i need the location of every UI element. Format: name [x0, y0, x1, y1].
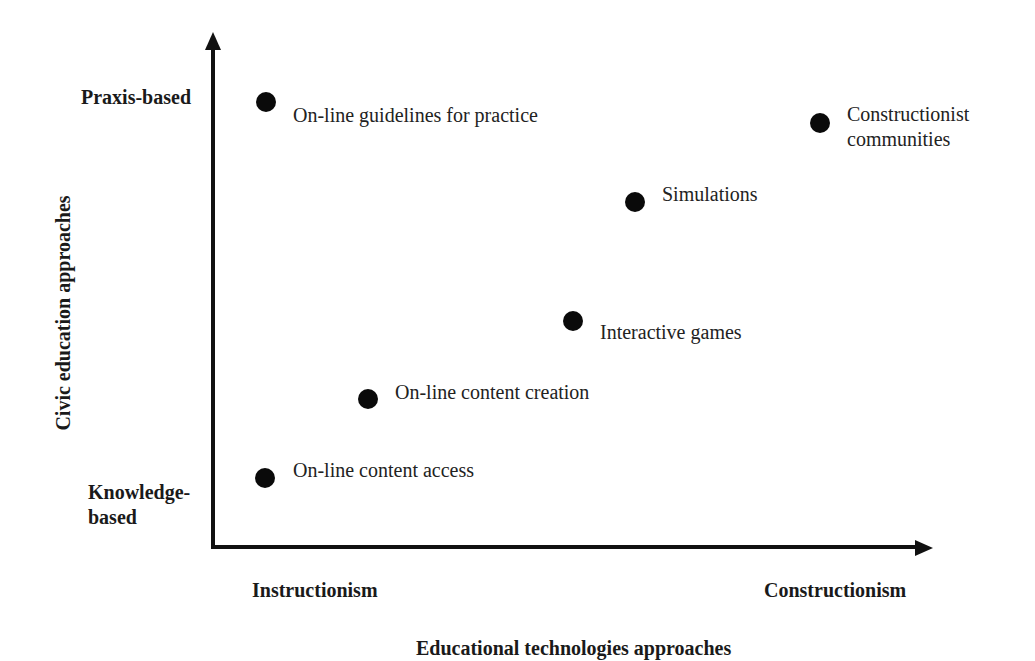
- point-marker-access: [255, 468, 275, 488]
- point-marker-games: [563, 311, 583, 331]
- x-axis-left-label: Instructionism: [252, 578, 378, 603]
- point-label-guidelines: On-line guidelines for practice: [293, 103, 538, 128]
- x-axis-arrowhead-icon: [915, 540, 933, 556]
- point-label-creation: On-line content creation: [395, 380, 589, 405]
- x-axis-right-label: Constructionism: [764, 578, 906, 603]
- point-label-games: Interactive games: [600, 320, 742, 345]
- y-axis-bottom-label: Knowledge- based: [88, 480, 190, 530]
- point-label-communities: Constructionist communities: [847, 102, 969, 152]
- y-axis-bottom-label-line1: Knowledge-: [88, 480, 190, 505]
- point-marker-simulations: [625, 192, 645, 212]
- point-label-access: On-line content access: [293, 458, 474, 483]
- point-label-communities-line2: communities: [847, 127, 969, 152]
- y-axis-top-label: Praxis-based: [81, 85, 191, 110]
- y-axis-arrowhead-icon: [205, 32, 221, 50]
- y-axis-bottom-label-line2: based: [88, 505, 190, 530]
- point-marker-creation: [358, 389, 378, 409]
- point-label-simulations: Simulations: [662, 182, 758, 207]
- y-axis-title: Civic education approaches: [52, 195, 75, 430]
- point-label-communities-line1: Constructionist: [847, 102, 969, 127]
- point-marker-communities: [810, 113, 830, 133]
- point-marker-guidelines: [256, 92, 276, 112]
- x-axis-title: Educational technologies approaches: [416, 636, 731, 661]
